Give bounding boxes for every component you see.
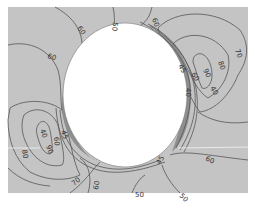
contour-label: 60 [92, 180, 101, 190]
contour-label: 80 [20, 149, 29, 159]
contour-label: 40 [184, 88, 192, 97]
contour-label: 50 [110, 22, 119, 32]
obstacle-disc [63, 23, 187, 167]
contour-label: 60 [52, 136, 61, 146]
contour-plot: 60 50 60 60 70 80 90 40 60 45 40 80 40 9… [0, 0, 255, 218]
contour-label: 50 [178, 192, 190, 204]
contour-label: 50 [135, 191, 144, 199]
